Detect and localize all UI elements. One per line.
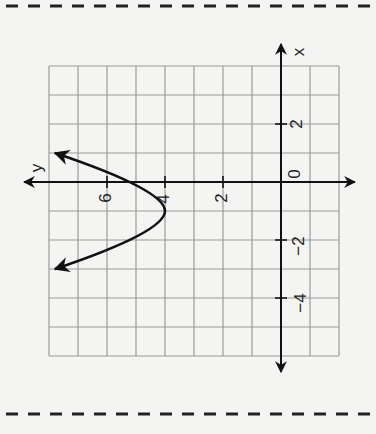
x-axis-label: x [289,47,308,56]
rotated-parabola-graph: x y 0 2 −2 −4 6 4 2 [0,0,376,434]
y-tick-label-6: 6 [96,193,115,202]
x-tick-label-2: 2 [287,119,306,128]
origin-label: 0 [285,169,304,178]
x-tick-label-neg4: −4 [291,293,310,312]
x-tick-label-neg2: −2 [289,236,308,255]
y-axis-label: y [27,163,46,172]
y-tick-label-2: 2 [212,193,231,202]
